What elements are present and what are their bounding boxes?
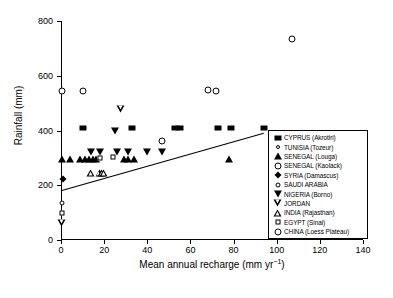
- legend-marker-open-circle-icon: [272, 161, 284, 170]
- legend-item[interactable]: NIGERIA (Borno): [272, 189, 364, 198]
- data-point: [96, 148, 104, 155]
- x-tick: [61, 240, 62, 244]
- small-open-circle-marker: [276, 182, 281, 187]
- legend-marker-filled-square-icon: [272, 133, 284, 142]
- data-point: [110, 155, 115, 160]
- data-point: [228, 125, 235, 130]
- legend-item[interactable]: CYPRUS (Akrotiri): [272, 133, 364, 142]
- legend-marker-open-circle-icon: [272, 227, 284, 236]
- y-axis-label: Rainfall (mm): [13, 36, 24, 196]
- legend-item-label: SYRIA (Damascus): [284, 171, 338, 180]
- x-tick-label: 20: [99, 245, 109, 256]
- filled-triangle-up-marker: [274, 153, 282, 160]
- x-axis-label-tail: ): [281, 259, 284, 270]
- legend-item-label: SENEGAL (Kaolack): [284, 161, 342, 170]
- data-point: [176, 126, 183, 131]
- legend-item[interactable]: SENEGAL (Louga): [272, 152, 364, 161]
- data-point: [117, 106, 126, 113]
- data-point: [204, 86, 211, 93]
- data-point: [97, 156, 102, 161]
- y-tick: [57, 240, 61, 241]
- legend-item[interactable]: SYRIA (Damascus): [272, 171, 364, 180]
- data-point: [143, 148, 151, 155]
- legend-item[interactable]: CHINA (Loess Plateau): [272, 227, 364, 236]
- data-point: [87, 169, 96, 176]
- y-tick: [57, 131, 61, 132]
- legend-item[interactable]: SAUDI ARABIA: [272, 180, 364, 189]
- legend-marker-filled-triangle-down-icon: [272, 190, 284, 199]
- x-tick: [320, 240, 321, 244]
- chart-legend: CYPRUS (Akrotiri)TUNISIA (Tozeur)SENEGAL…: [268, 130, 368, 239]
- open-circle-marker: [275, 228, 282, 235]
- y-tick-label: 0: [48, 235, 53, 246]
- legend-item-label: CHINA (Loess Plateau): [284, 227, 349, 236]
- y-tick-label: 600: [38, 70, 53, 81]
- x-tick: [190, 240, 191, 244]
- data-point: [124, 148, 132, 155]
- data-point: [60, 210, 65, 215]
- y-tick: [57, 185, 61, 186]
- legend-marker-open-triangle-down-icon: [272, 199, 284, 208]
- data-point: [66, 156, 74, 163]
- legend-item[interactable]: JORDAN: [272, 199, 364, 208]
- data-point: [59, 87, 66, 94]
- x-tick-label: 0: [58, 245, 63, 256]
- x-axis-label: Mean annual recharge (mm yr−1): [61, 258, 363, 270]
- scatter-chart-figure: 020406080100120140 0200400600800 Mean an…: [0, 0, 393, 298]
- x-tick: [234, 240, 235, 244]
- data-point: [58, 220, 67, 227]
- legend-item-label: CYPRUS (Akrotiri): [284, 133, 336, 142]
- data-point: [260, 125, 267, 130]
- data-point: [111, 127, 119, 134]
- data-point: [213, 87, 220, 94]
- open-square-marker: [276, 220, 281, 225]
- legend-marker-tiny-open-circle-icon: [272, 143, 284, 152]
- legend-item-label: INDIA (Rajasthan): [284, 208, 335, 217]
- legend-item-label: SENEGAL (Louga): [284, 152, 337, 161]
- data-point: [79, 87, 86, 94]
- legend-item-label: EGYPT (Sinai): [284, 218, 325, 227]
- x-tick-label: 60: [185, 245, 195, 256]
- legend-item[interactable]: INDIA (Rajasthan): [272, 208, 364, 217]
- data-point: [158, 148, 166, 155]
- data-point: [60, 201, 65, 206]
- legend-marker-open-triangle-up-icon: [272, 208, 284, 217]
- open-triangle-up-marker: [274, 209, 283, 216]
- legend-item-label: TUNISIA (Tozeur): [284, 143, 333, 152]
- y-tick: [57, 21, 61, 22]
- y-tick-label: 400: [38, 125, 53, 136]
- y-tick-label: 200: [38, 180, 53, 191]
- x-tick: [104, 240, 105, 244]
- legend-item[interactable]: SENEGAL (Kaolack): [272, 161, 364, 170]
- x-tick: [277, 240, 278, 244]
- legend-item-label: SAUDI ARABIA: [284, 180, 328, 189]
- data-point: [130, 156, 138, 163]
- x-axis-label-main: Mean annual recharge (mm yr: [139, 259, 273, 270]
- data-point: [100, 169, 109, 176]
- legend-marker-open-square-icon: [272, 218, 284, 227]
- x-tick-label: 140: [355, 245, 370, 256]
- y-tick: [57, 76, 61, 77]
- data-point: [288, 35, 295, 42]
- filled-triangle-down-marker: [274, 191, 282, 198]
- legend-item-label: JORDAN: [284, 199, 310, 208]
- open-triangle-down-marker: [274, 200, 283, 207]
- legend-item[interactable]: EGYPT (Sinai): [272, 218, 364, 227]
- x-tick-label: 100: [269, 245, 284, 256]
- x-tick-label: 80: [229, 245, 239, 256]
- legend-marker-filled-triangle-up-icon: [272, 152, 284, 161]
- y-tick-label: 800: [38, 16, 53, 27]
- x-tick: [363, 240, 364, 244]
- x-tick-label: 40: [142, 245, 152, 256]
- legend-item[interactable]: TUNISIA (Tozeur): [272, 142, 364, 151]
- data-point: [129, 126, 136, 131]
- data-point: [87, 148, 95, 155]
- data-point: [79, 126, 86, 131]
- legend-item-label: NIGERIA (Borno): [284, 190, 332, 199]
- filled-diamond-marker: [274, 172, 281, 179]
- tiny-open-circle-marker: [276, 145, 280, 149]
- open-circle-marker: [275, 162, 282, 169]
- data-point: [159, 137, 166, 144]
- legend-marker-small-open-circle-icon: [272, 180, 284, 189]
- data-point: [215, 125, 222, 130]
